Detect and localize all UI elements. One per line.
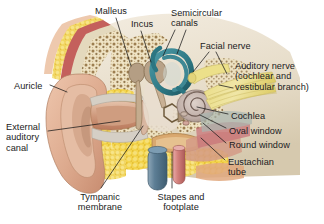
label-cochlea: Cochlea	[231, 111, 265, 121]
label-tympanic-membrane: Tympanic membrane	[68, 192, 132, 213]
ear-anatomy-figure: Malleus Incus Semicircular canals Facial…	[0, 0, 324, 224]
carotid-artery	[173, 145, 185, 184]
label-round-window: Round window	[229, 140, 290, 150]
label-auricle: Auricle	[14, 81, 42, 91]
oval-window	[181, 112, 188, 117]
label-incus: Incus	[131, 19, 153, 29]
ear-anatomy-illustration	[0, 0, 324, 224]
label-malleus: Malleus	[95, 6, 127, 16]
label-semicircular-canals: Semicircular canals	[171, 8, 222, 29]
label-stapes-and-footplate: Stapes and footplate	[148, 192, 214, 213]
label-auditory-nerve: Auditory nerve (cochlear and vestibular …	[235, 61, 309, 92]
label-eustachian-tube: Eustachian tube	[228, 157, 274, 178]
label-facial-nerve: Facial nerve	[200, 41, 251, 51]
round-window	[183, 121, 189, 125]
label-oval-window: Oval window	[229, 126, 282, 136]
label-external-auditory-canal: External auditory canal	[6, 122, 40, 153]
jugular-vein	[148, 146, 167, 190]
